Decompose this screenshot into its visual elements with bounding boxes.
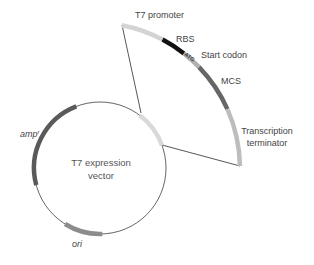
terminator-segment	[227, 109, 240, 166]
mcs-segment	[199, 67, 227, 109]
start-codon-label: Start codon	[201, 50, 247, 60]
t7-promoter-segment	[122, 25, 163, 39]
plasmid-name-line2: vector	[88, 170, 114, 181]
amp-label: ampr	[20, 129, 41, 140]
t7-promoter-label: T7 promoter	[135, 10, 184, 20]
rbs-label: RBS	[176, 34, 195, 44]
ori-segment	[65, 224, 102, 234]
insert-region-segment	[140, 115, 162, 145]
ori-label: ori	[72, 239, 83, 249]
plasmid-name-line1: T7 expression	[71, 157, 131, 168]
amp-label-superscript: r	[38, 129, 41, 135]
wedge-line-top	[122, 25, 141, 113]
plasmid-map: T7 promoter RBS ATG Start codon MCS Tran…	[0, 0, 314, 265]
amp-resistance-gene-segment	[34, 106, 76, 185]
wedge-line-bottom	[162, 145, 240, 166]
mcs-label: MCS	[221, 76, 241, 86]
terminator-label-line1: Transcription	[241, 126, 293, 136]
amp-label-text: amp	[20, 129, 38, 139]
terminator-label-line2: terminator	[247, 138, 288, 148]
